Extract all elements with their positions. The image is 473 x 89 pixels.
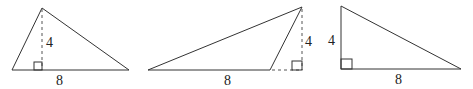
height-label: 4 [46, 35, 53, 50]
base-label: 8 [56, 73, 63, 88]
triangle-obtuse-outline [148, 7, 302, 70]
height-label: 4 [328, 33, 335, 48]
triangle-right-outline [341, 6, 461, 69]
triangle-obtuse: 4 8 [148, 7, 312, 88]
right-angle-marker [34, 62, 42, 70]
right-angle-marker [292, 61, 302, 70]
base-label: 8 [395, 72, 402, 87]
right-angle-marker [341, 59, 352, 69]
base-label: 8 [224, 73, 231, 88]
triangle-right: 4 8 [328, 6, 461, 87]
triangle-acute: 4 8 [12, 8, 129, 88]
triangle-acute-outline [12, 8, 129, 70]
triangles-figure: 4 8 4 8 4 8 [0, 0, 473, 89]
height-label: 4 [305, 34, 312, 49]
